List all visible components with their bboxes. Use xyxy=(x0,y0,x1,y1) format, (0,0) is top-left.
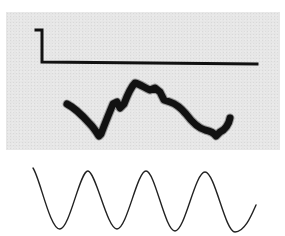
signal-figure xyxy=(0,0,285,236)
noisy-response-trace-edge xyxy=(67,83,230,136)
sine-reference-trace xyxy=(33,168,256,232)
step-stimulus-trace xyxy=(36,30,257,64)
traces-canvas xyxy=(0,0,285,236)
